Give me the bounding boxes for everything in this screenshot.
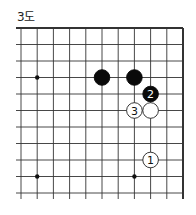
black-stone: 2 xyxy=(143,86,159,102)
move-number: 1 xyxy=(147,154,154,167)
go-board: 231 xyxy=(0,0,196,215)
star-point xyxy=(35,174,39,178)
move-number: 2 xyxy=(147,88,154,101)
move-number: 3 xyxy=(131,105,138,118)
black-stone xyxy=(127,70,143,86)
star-point xyxy=(132,174,136,178)
black-stone xyxy=(94,70,110,86)
white-stone xyxy=(143,103,159,119)
white-stone: 1 xyxy=(143,152,159,168)
star-point xyxy=(35,75,39,79)
white-stone: 3 xyxy=(127,103,143,119)
